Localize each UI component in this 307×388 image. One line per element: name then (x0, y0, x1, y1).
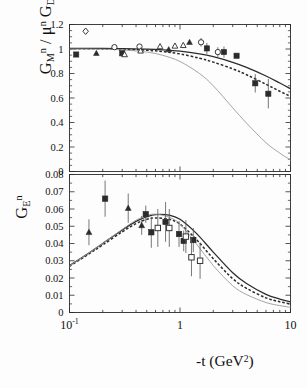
marker-open-square (167, 225, 172, 230)
top-panel-y-tick-label: 0.2 (50, 142, 63, 153)
top-panel-frame (70, 25, 291, 172)
curve-solid-upper (70, 214, 291, 301)
x-tick-label: 1 (177, 318, 183, 332)
x-tick-label-exponent: -1 (72, 317, 79, 326)
x-axis-label: -t (GeV2) (196, 352, 254, 370)
marker-filled-triangle (139, 222, 145, 227)
marker-open-circle (198, 40, 203, 45)
marker-open-square (189, 255, 194, 260)
bottom-panel-y-axis-label: GEn (12, 178, 34, 236)
ylabel-g: G (36, 62, 55, 74)
top-panel-x-ticks (70, 25, 291, 172)
bottom-panel-y-tick-label: 0.02 (45, 273, 63, 284)
marker-filled-triangle (125, 205, 131, 210)
xlabel-base: -t (GeV (196, 352, 244, 369)
ylabel-sub-m: M (45, 53, 56, 62)
x-tick-label-base: 10 (60, 318, 72, 332)
x-tick-label: 10 (285, 318, 297, 332)
marker-open-triangle (172, 43, 178, 48)
top-panel-y-ticks (70, 25, 291, 172)
bottom-panel-y-tick-label: 0 (58, 307, 63, 318)
top-panel-y-tick-label: 0.4 (50, 117, 64, 128)
marker-filled-square (176, 231, 181, 236)
marker-open-diamond (83, 28, 88, 35)
bottom-curves (70, 214, 291, 307)
x-tick-label-base: 10 (285, 318, 297, 332)
marker-filled-square (234, 53, 239, 58)
bottom-panel-y-tick-label: 0.06 (45, 204, 63, 215)
ylabel-top-text: GMn / μn GD (36, 0, 55, 74)
marker-filled-square (266, 91, 271, 96)
x-tick-label: 10-1 (60, 317, 79, 332)
figure-root: GMn / μn GD GEn -t (GeV2) 1.210.80.60.40… (0, 0, 307, 388)
marker-filled-square (143, 211, 148, 216)
top-curves (70, 48, 291, 159)
ylabel-sup-n2: n (37, 21, 48, 26)
marker-filled-triangle (187, 39, 193, 44)
marker-filled-square (163, 219, 168, 224)
ylabel-mu: μ (36, 26, 55, 35)
ylabel-bot-sub-e: E (21, 200, 32, 206)
ylabel-gd: G (36, 5, 55, 21)
marker-filled-square (102, 196, 107, 201)
marker-open-circle (112, 45, 117, 50)
marker-open-triangle (157, 44, 163, 49)
ylabel-slash: / (36, 35, 55, 48)
marker-open-square (183, 234, 188, 239)
bottom-panel-y-tick-label: 0.05 (45, 221, 63, 232)
marker-filled-triangle (93, 50, 99, 55)
curve-dashed-middle (70, 218, 291, 304)
top-data-points (74, 28, 271, 108)
marker-filled-triangle (86, 229, 92, 234)
marker-open-circle (215, 49, 220, 54)
marker-filled-square (149, 230, 154, 235)
ylabel-bot-g: G (12, 207, 31, 219)
ylabel-bot-sup-n: n (13, 195, 24, 200)
ylabel-sub-d: D (45, 0, 56, 5)
marker-filled-square (74, 52, 79, 57)
marker-filled-square (253, 81, 258, 86)
marker-filled-square (204, 46, 209, 51)
marker-open-square (155, 225, 160, 230)
x-tick-label-base: 1 (177, 318, 183, 332)
bottom-panel-y-tick-label: 0.08 (45, 169, 63, 180)
marker-filled-triangle (166, 47, 172, 52)
marker-open-triangle (180, 42, 186, 47)
ylabel-sup-n: n (37, 48, 48, 53)
xlabel-close: ) (249, 352, 254, 369)
ylabel-bottom-text: GEn (12, 195, 31, 218)
bottom-panel-y-tick-label: 0.07 (45, 186, 63, 197)
top-panel-y-axis-label: GMn / μn GD (36, 0, 64, 110)
curve-solid-thin-lower (70, 49, 291, 160)
bottom-panel-y-tick-label: 0.04 (45, 238, 64, 249)
marker-open-square (197, 258, 202, 263)
bottom-panel-y-tick-label: 0.01 (45, 290, 63, 301)
marker-filled-square (221, 49, 226, 54)
bottom-panel-y-tick-label: 0.03 (45, 255, 63, 266)
